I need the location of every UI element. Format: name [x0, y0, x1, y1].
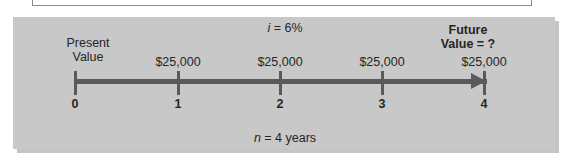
timeline-tick-label-4: 4 — [464, 97, 504, 111]
future-value-label: FutureValue = ? — [413, 23, 523, 51]
timeline-tick-2 — [279, 71, 282, 95]
interest-rate-value: = 6% — [270, 21, 302, 35]
present-value-label-line2: Value — [72, 50, 103, 64]
present-value-label-line1: Present — [66, 36, 109, 50]
period-variable: n — [254, 131, 261, 145]
upper-box-partial-edge — [32, 0, 532, 6]
interest-rate-label: i = 6% — [231, 21, 339, 35]
timeline-tick-label-2: 2 — [260, 97, 300, 111]
period-value: = 4 years — [261, 131, 316, 145]
number-of-periods-label: n = 4 years — [225, 131, 345, 145]
cash-flow-amount-period-1: $25,000 — [132, 55, 224, 69]
present-value-label: PresentValue — [46, 36, 130, 64]
cash-flow-amount-period-4: $25,000 — [438, 55, 530, 69]
timeline-tick-3 — [381, 71, 384, 95]
future-value-label-line2: Value = ? — [441, 37, 496, 51]
timeline-tick-4 — [483, 71, 486, 95]
cash-flow-amount-period-3: $25,000 — [336, 55, 428, 69]
cash-flow-amount-period-2: $25,000 — [234, 55, 326, 69]
timeline-tick-label-1: 1 — [158, 97, 198, 111]
future-value-label-line1: Future — [449, 23, 488, 37]
timeline-tick-1 — [177, 71, 180, 95]
timeline-tick-label-0: 0 — [55, 97, 95, 111]
timeline-tick-label-3: 3 — [362, 97, 402, 111]
cash-flow-timeline-figure: i = 6% PresentValue FutureValue = ? 01$2… — [13, 17, 555, 149]
timeline-tick-0 — [74, 71, 77, 95]
